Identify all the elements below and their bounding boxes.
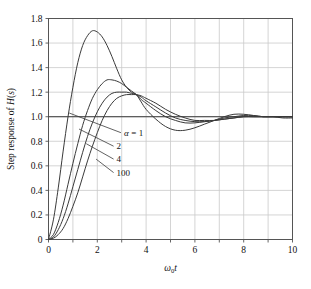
y-tick-label: 1.2 bbox=[31, 88, 43, 98]
chart-canvas: 024681000.20.40.60.81.01.21.41.61.8 α=12… bbox=[0, 0, 311, 289]
x-axis-title: ω0t bbox=[164, 263, 177, 275]
alpha-symbol: α bbox=[124, 128, 129, 138]
alpha-value: 1 bbox=[139, 128, 144, 138]
x-tick-label: 0 bbox=[46, 245, 51, 255]
series-label-100: 100 bbox=[117, 168, 131, 178]
step-response-chart: 024681000.20.40.60.81.01.21.41.61.8 α=12… bbox=[0, 0, 311, 289]
series-label-2: 2 bbox=[117, 141, 122, 151]
y-tick-label: 1.6 bbox=[31, 38, 43, 48]
equals-symbol: = bbox=[131, 128, 136, 138]
x-tick-label: 4 bbox=[144, 245, 149, 255]
y-tick-label: 1.4 bbox=[31, 63, 43, 73]
y-axis-title: Step response of H(s) bbox=[6, 88, 17, 170]
y-tick-label: 0.2 bbox=[31, 210, 43, 220]
series-label-alpha-1: α=1 bbox=[124, 128, 143, 138]
x-tick-label: 8 bbox=[241, 245, 246, 255]
x-tick-label: 2 bbox=[95, 245, 100, 255]
y-tick-label: 0.4 bbox=[31, 186, 43, 196]
y-tick-label: 1.8 bbox=[31, 14, 43, 24]
y-tick-label: 1.0 bbox=[31, 112, 43, 122]
y-tick-label: 0.8 bbox=[31, 137, 43, 147]
series-label-4: 4 bbox=[117, 154, 122, 164]
y-tick-label: 0.6 bbox=[31, 161, 43, 171]
y-tick-label: 0 bbox=[38, 235, 43, 245]
x-tick-label: 10 bbox=[288, 245, 298, 255]
x-tick-label: 6 bbox=[193, 245, 198, 255]
